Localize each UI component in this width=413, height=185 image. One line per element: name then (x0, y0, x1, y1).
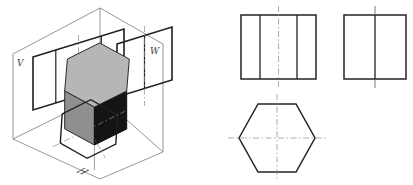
v-plane-top-edge (13, 8, 100, 54)
figure-canvas: V W H (0, 0, 413, 185)
figure-page: V W H (0, 0, 413, 185)
w-plane-label: W (150, 46, 160, 56)
axonometric-scene: V W H (13, 8, 172, 179)
w-plane-top-edge (100, 8, 163, 44)
h-plane-front-right-edge (100, 152, 163, 179)
hexagonal-prism (65, 43, 130, 145)
h-plane-label: H (73, 166, 91, 176)
front-view (241, 6, 316, 88)
orthographic-views (228, 6, 406, 182)
side-view (344, 6, 406, 88)
v-plane-label: V (17, 58, 25, 68)
top-view (228, 94, 326, 182)
